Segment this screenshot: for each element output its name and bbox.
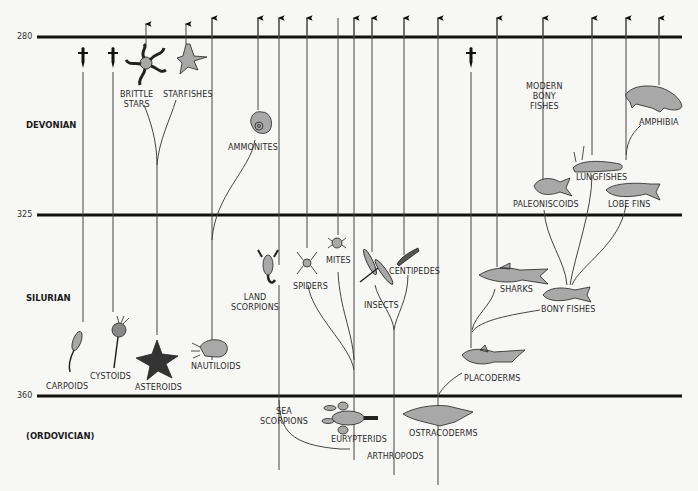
ammonite-icon — [251, 112, 272, 134]
label-spiders: SPIDERS — [293, 282, 328, 292]
label-modern-bony-fishes: MODERNBONYFISHES — [526, 82, 563, 112]
label-brittle-stars-line2: STARS — [124, 100, 150, 109]
label-placoderms: PLACODERMS — [464, 374, 520, 384]
bony-fish-icon — [543, 287, 591, 302]
label-asteroids: ASTEROIDS — [135, 383, 182, 393]
time-tick-325: 325 — [17, 210, 32, 219]
carpoid-icon — [69, 330, 84, 372]
continuing-lineage-arrows — [212, 18, 659, 38]
spider-icon — [297, 252, 317, 274]
label-land-scorpions-line2: SCORPIONS — [231, 303, 279, 312]
label-sea-scorpions-line2: SCORPIONS — [260, 417, 308, 426]
label-lungfishes: LUNGFISHES — [576, 173, 627, 183]
label-insects: INSECTS — [364, 301, 399, 311]
period-devonian: DEVONIAN — [26, 120, 77, 130]
label-sharks: SHARKS — [500, 285, 533, 295]
label-eurypterids: EURYPTERIDS — [331, 435, 387, 445]
evolution-diagram: 280 325 360 DEVONIAN SILURIAN (ORDOVICIA… — [0, 0, 698, 491]
lobe-fin-icon — [606, 183, 660, 200]
mite-icon — [328, 238, 346, 248]
label-paleoniscoids: PALEONISCOIDS — [513, 200, 579, 210]
label-carpoids: CARPOIDS — [46, 382, 88, 392]
time-tick-280: 280 — [17, 32, 32, 41]
nautiloid-icon — [191, 340, 227, 358]
paleoniscoid-icon — [534, 178, 572, 196]
label-brittle-stars-line1: BRITTLE — [120, 90, 153, 99]
label-brittle-stars: BRITTLESTARS — [120, 90, 153, 110]
starfish-icon — [177, 44, 207, 74]
label-amphibia: AMPHIBIA — [639, 118, 679, 128]
label-land-scorpions-line1: LAND — [244, 293, 267, 302]
period-silurian: SILURIAN — [26, 293, 71, 303]
lungfish-icon — [573, 161, 622, 172]
label-modern-bony-fishes-line3: FISHES — [530, 102, 559, 111]
label-lobe-fins: LOBE FINS — [608, 200, 650, 210]
label-nautiloids: NAUTILOIDS — [191, 362, 241, 372]
label-ammonites: AMMONITES — [228, 143, 278, 153]
label-mites: MITES — [326, 256, 351, 266]
label-sea-scorpions-line1: SEA — [276, 407, 292, 416]
label-modern-bony-fishes-line1: MODERN — [526, 82, 563, 91]
label-bony-fishes: BONY FISHES — [541, 305, 595, 315]
asteroid-icon — [136, 340, 178, 380]
shark-icon — [479, 263, 548, 284]
amphibian-icon — [626, 86, 682, 112]
eurypterid-icon — [322, 402, 378, 434]
label-cystoids: CYSTOIDS — [90, 372, 131, 382]
diagram-lines — [0, 0, 698, 491]
label-sea-scorpions: SEASCORPIONS — [260, 407, 308, 427]
label-land-scorpions: LANDSCORPIONS — [231, 293, 279, 313]
brittle-star-icon — [126, 44, 166, 85]
label-starfishes: STARFISHES — [163, 90, 213, 100]
period-ordovician: (ORDOVICIAN) — [26, 431, 94, 441]
label-modern-bony-fishes-line2: BONY — [533, 92, 556, 101]
lineage-lines — [83, 18, 659, 485]
label-centipedes: CENTIPEDES — [389, 267, 440, 277]
time-tick-360: 360 — [17, 391, 32, 400]
centipede-icon — [397, 248, 419, 266]
label-arthropods: ARTHROPODS — [367, 452, 424, 462]
label-ostracoderms: OSTRACODERMS — [409, 429, 478, 439]
land-scorpion-icon — [258, 250, 278, 282]
cystoid-icon — [112, 316, 129, 368]
ostracoderm-icon — [403, 405, 473, 426]
